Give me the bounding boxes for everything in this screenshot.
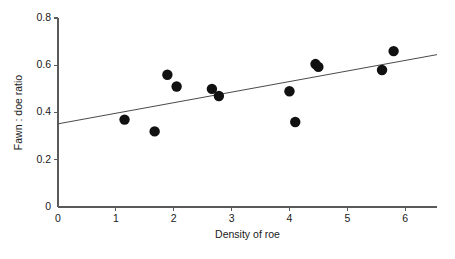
data-point: [313, 62, 323, 72]
trend-line: [58, 55, 437, 124]
data-point: [171, 81, 181, 91]
x-tick-label: 0: [55, 212, 61, 224]
x-axis-tick-labels: 0123456: [55, 212, 408, 224]
y-axis-title: Fawn : doe ratio: [12, 75, 24, 150]
data-points-group: [119, 46, 398, 137]
x-tick-label: 5: [344, 212, 350, 224]
data-point: [290, 117, 300, 127]
data-point: [149, 126, 159, 136]
x-tick-label: 1: [113, 212, 119, 224]
data-point: [119, 114, 129, 124]
y-axis-tick-labels: 00.20.40.60.8: [36, 11, 51, 212]
x-tick-label: 3: [229, 212, 235, 224]
data-point: [377, 65, 387, 75]
y-tick-label: 0.8: [36, 11, 51, 23]
y-tick-label: 0.4: [36, 105, 51, 117]
y-tick-label: 0.6: [36, 58, 51, 70]
data-point: [162, 70, 172, 80]
x-tick-label: 6: [402, 212, 408, 224]
x-axis-title: Density of roe: [215, 228, 280, 240]
data-point: [388, 46, 398, 56]
x-tick-label: 2: [171, 212, 177, 224]
y-tick-label: 0.2: [36, 153, 51, 165]
y-tick-label: 0: [45, 200, 51, 212]
x-tick-label: 4: [287, 212, 293, 224]
data-point: [284, 86, 294, 96]
data-point: [214, 91, 224, 101]
scatter-plot-figure: 00.20.40.60.8 0123456 Density of roe Faw…: [0, 0, 455, 259]
plot-canvas: 00.20.40.60.8 0123456 Density of roe Faw…: [0, 0, 455, 259]
